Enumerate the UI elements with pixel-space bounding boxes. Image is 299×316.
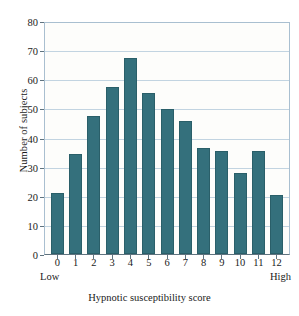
y-axis-tickmark — [40, 80, 44, 81]
bar-column — [85, 22, 103, 254]
y-axis-tickmark — [40, 226, 44, 227]
x-axis-tick-label: 8 — [194, 257, 212, 268]
x-axis-tick-label: 5 — [140, 257, 158, 268]
x-axis-tick-label: 7 — [176, 257, 194, 268]
x-axis-tick-label: 9 — [213, 257, 231, 268]
y-axis-tick-label: 50 — [8, 104, 38, 115]
bar — [69, 154, 82, 254]
bar — [124, 58, 137, 254]
high-anchor-label: High — [270, 271, 291, 282]
y-axis-tick-label: 20 — [8, 191, 38, 202]
y-axis-tick-label: 70 — [8, 46, 38, 57]
y-axis-tick-label: 60 — [8, 75, 38, 86]
y-axis-tick-label: 10 — [8, 220, 38, 231]
y-axis-tickmark — [40, 51, 44, 52]
x-axis-tick-label: 2 — [85, 257, 103, 268]
bar — [106, 87, 119, 254]
bar-column — [267, 22, 285, 254]
bar-column — [194, 22, 212, 254]
bar-column — [103, 22, 121, 254]
bar — [87, 116, 100, 254]
bar-column — [67, 22, 85, 254]
bar-column — [213, 22, 231, 254]
y-axis-tickmark — [40, 139, 44, 140]
y-axis-tickmark — [40, 22, 44, 23]
bar — [197, 148, 210, 254]
bar — [215, 151, 228, 254]
y-axis-tick-label: 30 — [8, 162, 38, 173]
x-axis-tick-label: 4 — [121, 257, 139, 268]
bar-column — [249, 22, 267, 254]
x-axis-tick-label: 0 — [48, 257, 66, 268]
bar — [270, 195, 283, 254]
x-axis-ticks: 0123456789101112 — [45, 257, 289, 268]
hypnotic-susceptibility-histogram: Number of subjects 01020304050607080 012… — [0, 0, 299, 316]
y-axis-tick-label: 0 — [8, 250, 38, 261]
y-axis-tickmark — [40, 197, 44, 198]
x-axis-tick-label: 3 — [103, 257, 121, 268]
bar — [179, 121, 192, 254]
bar — [234, 173, 247, 254]
bar — [51, 193, 64, 254]
bar — [161, 109, 174, 254]
x-axis-tick-label: 1 — [67, 257, 85, 268]
bar-column — [231, 22, 249, 254]
x-axis-tick-label: 11 — [249, 257, 267, 268]
bar-column — [140, 22, 158, 254]
y-axis-tickmark — [40, 109, 44, 110]
y-axis-tick-label: 40 — [8, 133, 38, 144]
bar-series — [45, 22, 289, 254]
x-axis-tick-label: 6 — [158, 257, 176, 268]
bar — [252, 151, 265, 254]
bar-column — [176, 22, 194, 254]
x-axis-tick-label: 10 — [231, 257, 249, 268]
y-axis-tickmark — [40, 255, 44, 256]
y-axis-tick-label: 80 — [8, 17, 38, 28]
bar-column — [158, 22, 176, 254]
bar — [142, 93, 155, 254]
low-anchor-label: Low — [40, 271, 59, 282]
bar-column — [121, 22, 139, 254]
x-axis-title: Hypnotic susceptibility score — [0, 292, 299, 303]
x-axis-tick-label: 12 — [267, 257, 285, 268]
bar-column — [48, 22, 66, 254]
y-axis-tickmark — [40, 168, 44, 169]
